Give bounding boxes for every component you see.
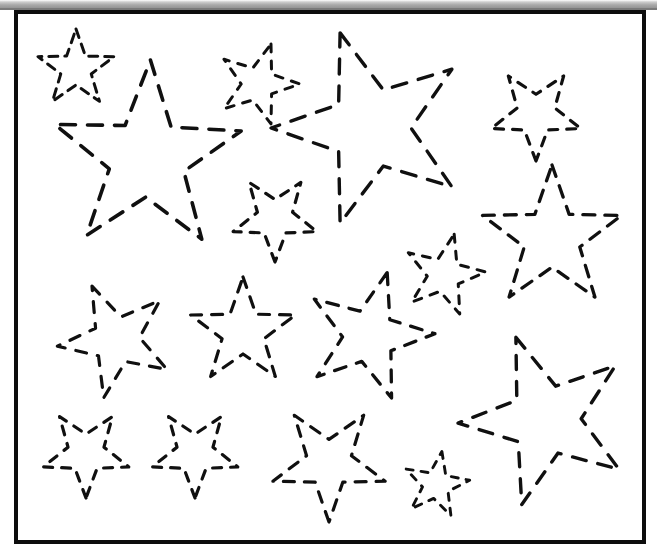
worksheet-page bbox=[0, 0, 657, 548]
worksheet-border-frame bbox=[14, 10, 646, 544]
